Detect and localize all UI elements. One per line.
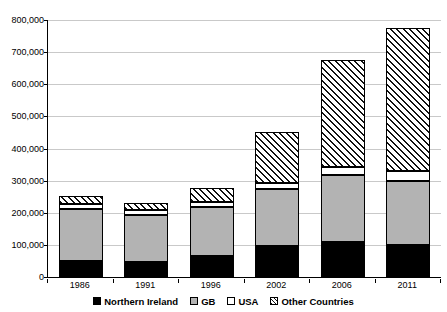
bar-segment-northern-ireland[interactable] xyxy=(59,261,103,277)
legend-item-gb: GB xyxy=(190,296,215,307)
bar-segment-gb[interactable] xyxy=(321,175,365,242)
legend-swatch-icon xyxy=(227,297,235,305)
bar-segment-other-countries[interactable] xyxy=(190,188,234,202)
legend-swatch-icon xyxy=(190,297,198,305)
stacked-bar-chart: 0 100,000 200,000 300,000 400,000 500,00… xyxy=(0,0,447,312)
bar-segment-northern-ireland[interactable] xyxy=(255,246,299,277)
bar-segment-other-countries[interactable] xyxy=(255,132,299,182)
x-tick-label: 1991 xyxy=(115,279,175,291)
x-tick-mark xyxy=(440,279,441,283)
bar-segment-usa[interactable] xyxy=(321,167,365,175)
x-tick-label: 2002 xyxy=(246,279,306,291)
bar-segment-gb[interactable] xyxy=(59,209,103,261)
x-tick-label: 1996 xyxy=(181,279,241,291)
x-tick-mark xyxy=(178,279,179,283)
bar-segment-gb[interactable] xyxy=(190,207,234,256)
legend-label: Northern Ireland xyxy=(104,296,178,307)
legend-item-usa: USA xyxy=(227,296,258,307)
legend-label: GB xyxy=(201,296,215,307)
y-axis-tick-marks xyxy=(0,20,51,278)
legend-swatch-icon xyxy=(270,297,278,305)
bar-segment-northern-ireland[interactable] xyxy=(124,262,168,277)
x-tick-mark xyxy=(113,279,114,283)
legend-item-northern-ireland: Northern Ireland xyxy=(93,296,178,307)
bar-segment-gb[interactable] xyxy=(124,215,168,262)
bar-segment-gb[interactable] xyxy=(255,189,299,246)
legend-label: Other Countries xyxy=(281,296,353,307)
legend-item-other-countries: Other Countries xyxy=(270,296,353,307)
bar-segment-usa[interactable] xyxy=(386,171,430,181)
bar-segment-usa[interactable] xyxy=(255,183,299,189)
bar-segment-northern-ireland[interactable] xyxy=(321,242,365,277)
x-tick-label: 2011 xyxy=(377,279,437,291)
x-tick-mark xyxy=(309,279,310,283)
bar-segment-usa[interactable] xyxy=(124,210,168,215)
chart-legend: Northern Ireland GB USA Other Countries xyxy=(0,292,447,310)
legend-swatch-icon xyxy=(93,297,101,305)
bar-segment-usa[interactable] xyxy=(59,204,103,209)
x-tick-label: 2006 xyxy=(312,279,372,291)
bar-segment-other-countries[interactable] xyxy=(124,203,168,210)
bar-segment-northern-ireland[interactable] xyxy=(190,256,234,277)
bar-segment-gb[interactable] xyxy=(386,181,430,245)
x-tick-mark xyxy=(375,279,376,283)
bar-segment-other-countries[interactable] xyxy=(321,60,365,167)
plot-area xyxy=(47,20,441,278)
bar-segment-other-countries[interactable] xyxy=(386,28,430,171)
x-tick-mark xyxy=(244,279,245,283)
bar-segment-northern-ireland[interactable] xyxy=(386,245,430,277)
bar-segment-usa[interactable] xyxy=(190,202,234,207)
x-tick-label: 1986 xyxy=(50,279,110,291)
x-tick-mark xyxy=(47,279,48,283)
bar-segment-other-countries[interactable] xyxy=(59,196,103,204)
legend-label: USA xyxy=(238,296,258,307)
